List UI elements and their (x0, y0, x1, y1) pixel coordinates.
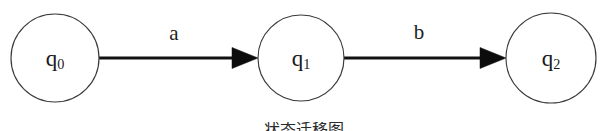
transition-edge-a[interactable] (99, 48, 258, 69)
state-label-q1-base: q (292, 46, 304, 71)
transition-label-b: b (414, 22, 425, 43)
state-label-q0-subscript: 0 (57, 56, 64, 72)
state-label-q2-subscript: 2 (553, 56, 560, 72)
transition-label-a: a (169, 23, 178, 44)
transition-edge-b[interactable] (344, 48, 506, 69)
state-label-q2-base: q (542, 46, 554, 71)
state-label-q1: q1 (292, 47, 311, 71)
arrowhead-icon-a (232, 48, 258, 69)
state-label-q2: q2 (542, 47, 561, 71)
state-label-q0: q0 (46, 47, 65, 71)
diagram-caption: 状态迁移图 (0, 122, 608, 131)
arrowhead-icon-b (480, 48, 506, 69)
diagram-canvas: q0 q1 q2 a b 状态迁移图 (0, 0, 608, 131)
state-label-q1-subscript: 1 (303, 56, 310, 72)
state-label-q0-base: q (46, 46, 58, 71)
